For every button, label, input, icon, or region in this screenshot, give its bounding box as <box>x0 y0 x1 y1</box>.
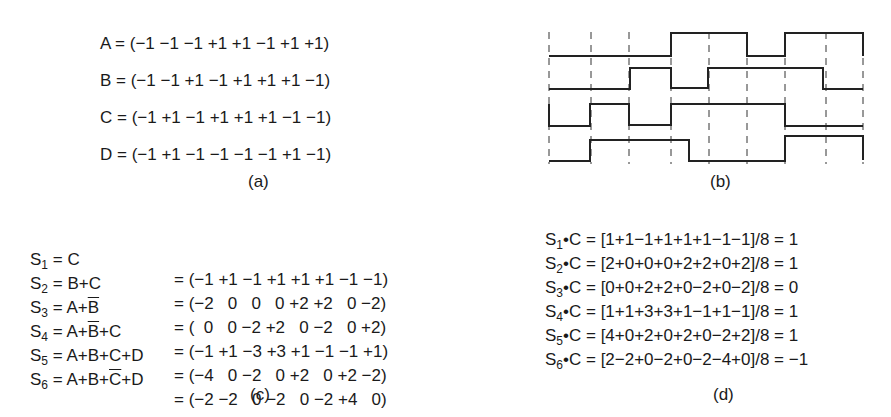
s-label: S <box>545 302 556 321</box>
waveform-d <box>549 136 863 161</box>
inner-product-row-3: S3•C = [0+0+2+2+0−2+0−2]/8 = 0 <box>545 278 798 298</box>
inner-product-expression: •C = [1+1−1+1+1+1−1−1]/8 = 1 <box>563 230 798 249</box>
sum-row-4: S4 = A+B+C = (−1 +1 −3 +3 +1 −1 −1 +1) <box>30 302 450 322</box>
s-label: S <box>545 230 556 249</box>
sum-row-6: S6 = A+B+C+D = (−2 −2 0 −2 0 −2 +4 0) <box>30 350 450 370</box>
s-label: S <box>545 254 556 273</box>
sum-expression: = A+B+ <box>48 370 109 389</box>
chip-boundary-lines <box>549 32 863 164</box>
inner-product-expression: •C = [2+0+0+0+2+2+0+2]/8 = 1 <box>563 254 798 273</box>
sum-result: = (−2 −2 0 −2 0 −2 +4 0) <box>174 390 387 410</box>
s-label: S <box>545 326 556 345</box>
inner-product-row-4: S4•C = [1+1+3+3+1−1+1−1]/8 = 1 <box>545 302 798 322</box>
sum-row-2: S2 = B+C = (−2 0 0 0 +2 +2 0 −2) <box>30 254 450 274</box>
sum-row-3: S3 = A+B = ( 0 0 −2 +2 0 −2 0 +2) <box>30 278 450 298</box>
inner-product-expression: •C = [1+1+3+3+1−1+1−1]/8 = 1 <box>563 302 798 321</box>
inner-product-row-5: S5•C = [4+0+2+0+2+0−2+2]/8 = 1 <box>545 326 798 346</box>
caption-c: (c) <box>250 385 270 405</box>
waveform-c <box>549 104 863 126</box>
inner-product-row-6: S6•C = [2−2+0−2+0−2−4+0]/8 = −1 <box>545 350 808 370</box>
s-label: S <box>30 370 41 389</box>
sum-row-5: S5 = A+B+C+D = (−4 0 −2 0 +2 0 +2 −2) <box>30 326 450 346</box>
inner-product-row-1: S1•C = [1+1−1+1+1+1−1−1]/8 = 1 <box>545 230 798 250</box>
caption-b: (b) <box>710 172 731 192</box>
inner-product-expression: •C = [2−2+0−2+0−2−4+0]/8 = −1 <box>563 350 808 369</box>
s-label: S <box>545 278 556 297</box>
inner-product-row-2: S2•C = [2+0+0+0+2+2+0+2]/8 = 1 <box>545 254 798 274</box>
inner-product-expression: •C = [4+0+2+0+2+0−2+2]/8 = 1 <box>563 326 798 345</box>
s-label: S <box>545 350 556 369</box>
inner-product-expression: •C = [0+0+2+2+0−2+0−2]/8 = 0 <box>563 278 798 297</box>
complement-term: C <box>109 370 121 389</box>
caption-d: (d) <box>713 385 734 405</box>
waveform-b <box>549 68 863 89</box>
waveform-a <box>549 33 863 56</box>
sum-expression-tail: +D <box>121 370 143 389</box>
sum-row-1: S1 = C = (−1 +1 −1 +1 +1 +1 −1 −1) <box>30 230 450 250</box>
